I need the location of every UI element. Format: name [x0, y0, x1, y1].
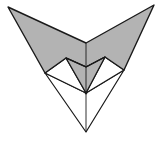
gray-wings-shape: [8, 5, 154, 73]
convergence-point: [85, 92, 88, 95]
origami-fold-diagram: [0, 0, 159, 145]
